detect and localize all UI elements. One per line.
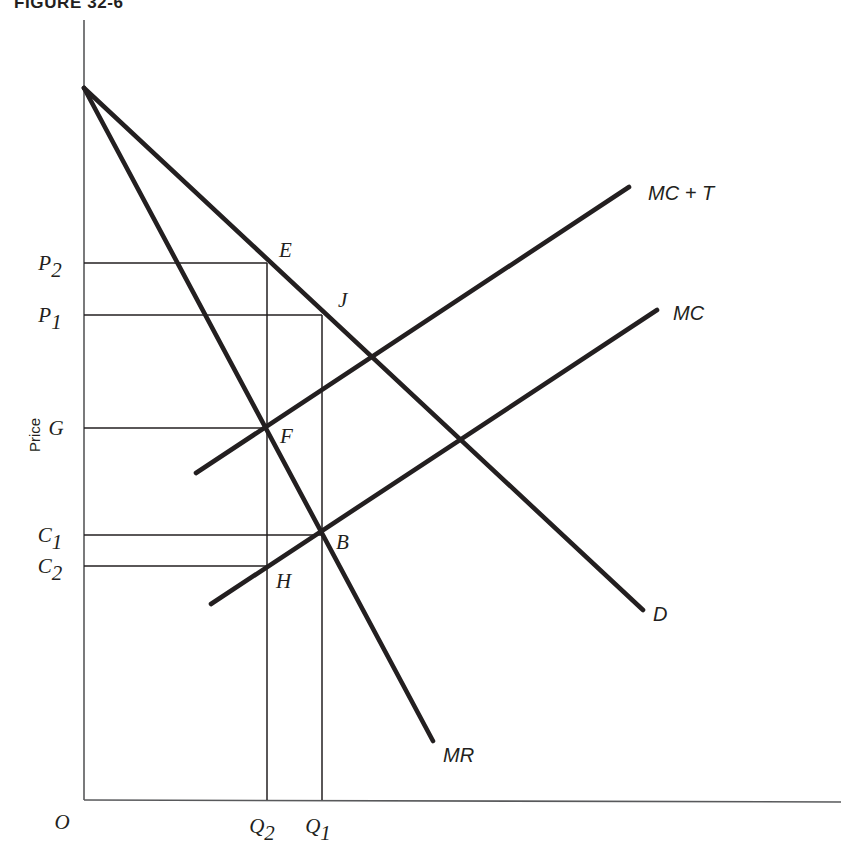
curve-label-mc: MC xyxy=(673,302,705,324)
point-label-h: H xyxy=(275,569,293,593)
point-label-e: E xyxy=(278,238,292,262)
demand-curve xyxy=(84,88,643,610)
point-label-j: J xyxy=(338,288,349,312)
y-tick-label-p2: P2 xyxy=(37,251,62,282)
point-label-b: B xyxy=(336,530,349,554)
x-axis xyxy=(84,800,841,802)
economics-diagram-svg: P2 P1 G C1 C2 O Q2 Q1 E J F B H MC + T M… xyxy=(0,0,841,847)
marginal-cost-plus-tax-curve xyxy=(196,187,629,473)
curve-label-mr: MR xyxy=(443,744,474,766)
y-tick-label-p1: P1 xyxy=(37,303,61,334)
y-tick-label-c2: C2 xyxy=(38,554,63,585)
point-label-f: F xyxy=(279,424,293,448)
marginal-revenue-curve xyxy=(84,88,433,741)
origin-label: O xyxy=(54,810,69,834)
y-tick-label-c1: C1 xyxy=(38,523,63,554)
curve-label-mc-plus-t: MC + T xyxy=(648,182,716,204)
figure-container: FIGURE 32-6 Price P2 P1 G C1 C2 xyxy=(0,0,841,847)
y-tick-label-g: G xyxy=(48,416,63,440)
x-tick-label-q1: Q1 xyxy=(305,814,331,845)
curve-label-d: D xyxy=(653,603,667,625)
x-tick-label-q2: Q2 xyxy=(249,814,275,845)
